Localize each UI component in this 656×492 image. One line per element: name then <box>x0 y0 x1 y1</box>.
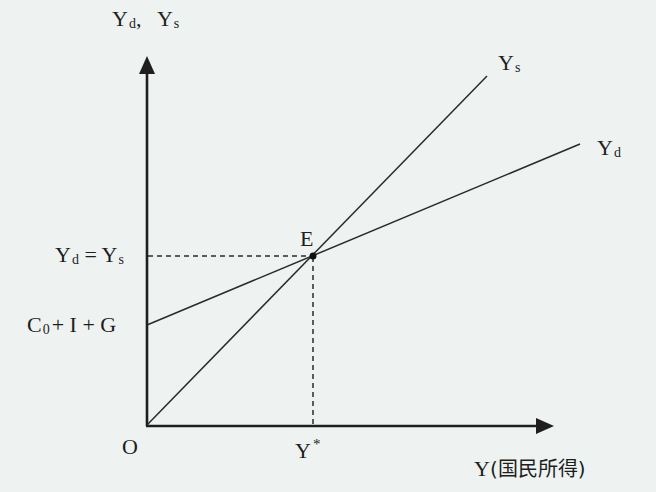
y-axis-label: Yd, Ys <box>112 8 179 31</box>
x-axis-label: Y(国民所得) <box>474 458 586 480</box>
y-axis-arrow-icon <box>139 56 155 74</box>
equilibrium-point-label: E <box>300 228 313 250</box>
demand-line-label: Yd <box>597 137 621 160</box>
origin-label: O <box>122 436 138 458</box>
supply-line-label: Ys <box>498 52 520 75</box>
equilibrium-point-e <box>310 253 317 260</box>
intercept-label: C0+ I + G <box>27 314 116 337</box>
equilibrium-income-label: Y* <box>295 437 320 462</box>
x-axis-arrow-icon <box>536 418 554 434</box>
demand-line-yd <box>147 144 580 325</box>
supply-line-ys <box>147 76 487 425</box>
equilibrium-level-label: Yd = Ys <box>55 244 124 267</box>
